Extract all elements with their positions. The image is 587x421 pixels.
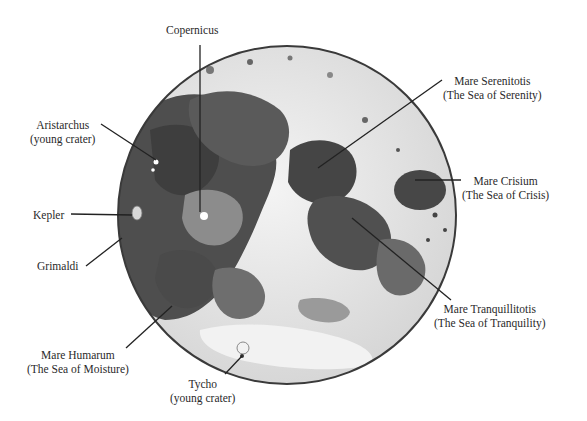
label-mare-humarum: Mare Humarum (The Sea of Moisture) (27, 348, 129, 376)
moon-disc (118, 46, 456, 384)
label-kepler: Kepler (33, 208, 64, 222)
label-mare-crisium: Mare Crisium (The Sea of Crisis) (462, 174, 549, 202)
label-aristarchus: Aristarchus (young crater) (30, 118, 95, 146)
leader-grimaldi (86, 238, 122, 266)
label-mare-tranquillitatis: Mare Tranquillitotis (The Sea of Tranqui… (434, 302, 545, 330)
label-mare-serenitatis: Mare Serenitotis (The Sea of Serenity) (443, 74, 542, 102)
label-grimaldi: Grimaldi (37, 259, 79, 273)
label-tycho: Tycho (young crater) (170, 377, 235, 405)
moon-diagram: Copernicus Aristarchus (young crater) Ke… (0, 0, 587, 421)
label-copernicus: Copernicus (166, 23, 218, 37)
